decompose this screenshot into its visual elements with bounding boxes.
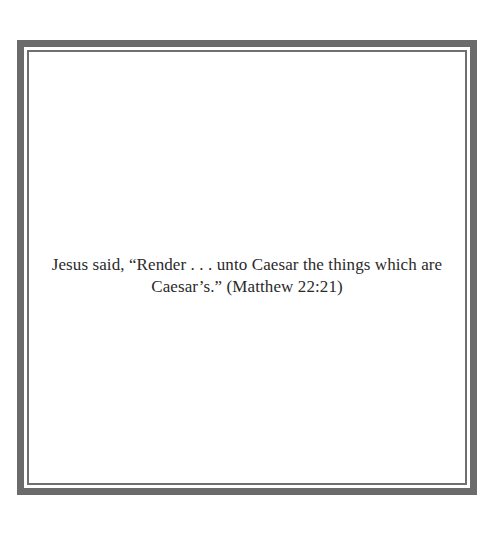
quote-line-1: Jesus said, “Render . . . unto Caesar th… — [29, 254, 465, 276]
quote-line-2: Caesar’s.” (Matthew 22:21) — [29, 276, 465, 298]
scripture-quote: Jesus said, “Render . . . unto Caesar th… — [29, 254, 465, 298]
inner-border-frame: Jesus said, “Render . . . unto Caesar th… — [27, 50, 467, 485]
outer-border-frame: Jesus said, “Render . . . unto Caesar th… — [17, 40, 477, 495]
